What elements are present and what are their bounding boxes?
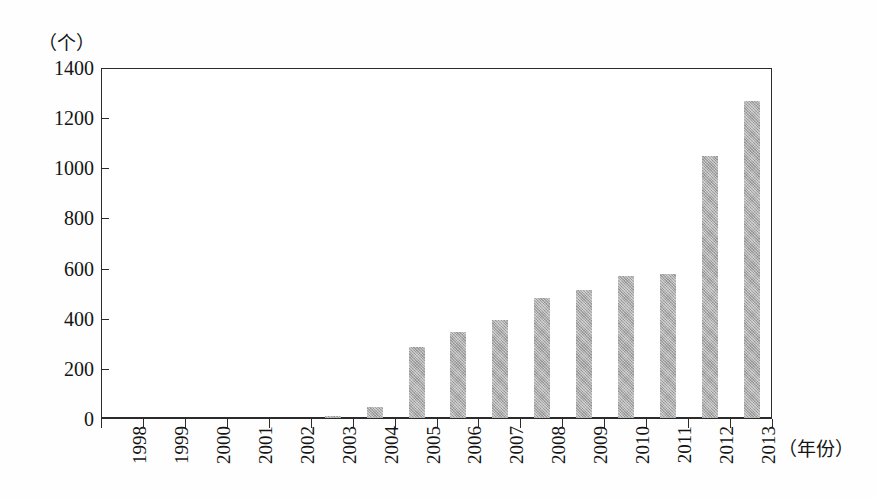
x-tick-mark — [688, 419, 689, 428]
bar — [618, 276, 634, 418]
bar — [660, 274, 676, 418]
x-tick-mark — [520, 419, 521, 428]
plot-area — [101, 68, 772, 419]
bar — [534, 298, 550, 418]
x-tick-mark — [101, 419, 102, 428]
y-axis-unit-label: （个） — [38, 28, 95, 55]
bar — [409, 347, 425, 418]
bar — [325, 416, 341, 419]
x-tick-label: 2004 — [382, 426, 401, 464]
x-tick-mark — [395, 419, 396, 428]
y-tick-label: 800 — [22, 208, 94, 228]
y-tick-label: 0 — [22, 409, 94, 429]
x-axis-unit-label: （年份） — [778, 434, 854, 461]
x-tick-label: 2009 — [591, 426, 610, 464]
bars-layer — [102, 69, 771, 418]
x-tick-mark — [730, 419, 731, 428]
bar-chart-figure: （个） 0200400600800100012001400 1998199920… — [0, 0, 876, 498]
x-tick-label: 2011 — [675, 426, 694, 463]
x-tick-mark — [143, 419, 144, 428]
x-tick-mark — [437, 419, 438, 428]
x-tick-mark — [478, 419, 479, 428]
x-tick-label: 2000 — [214, 426, 233, 464]
x-tick-label: 2008 — [549, 426, 568, 464]
x-tick-mark — [604, 419, 605, 428]
x-tick-label: 2010 — [633, 426, 652, 464]
bar — [367, 407, 383, 418]
x-tick-mark — [227, 419, 228, 428]
x-tick-label: 2013 — [759, 426, 778, 464]
x-tick-label: 2003 — [340, 426, 359, 464]
x-tick-mark — [562, 419, 563, 428]
y-tick-label: 1200 — [22, 108, 94, 128]
bar — [492, 320, 508, 418]
x-tick-label: 2005 — [424, 426, 443, 464]
bar — [576, 290, 592, 418]
x-tick-mark — [185, 419, 186, 428]
x-tick-mark — [646, 419, 647, 428]
x-tick-label: 2001 — [256, 426, 275, 464]
bar — [744, 101, 760, 418]
x-tick-label: 1998 — [130, 426, 149, 464]
y-tick-label: 200 — [22, 359, 94, 379]
y-tick-label: 600 — [22, 259, 94, 279]
bar — [702, 156, 718, 418]
x-tick-label: 1999 — [172, 426, 191, 464]
x-tick-label: 2006 — [465, 426, 484, 464]
x-tick-mark — [353, 419, 354, 428]
y-tick-label: 400 — [22, 309, 94, 329]
x-tick-label: 2002 — [298, 426, 317, 464]
y-tick-label: 1400 — [22, 58, 94, 78]
x-tick-mark — [269, 419, 270, 428]
y-tick-label: 1000 — [22, 158, 94, 178]
x-tick-label: 2007 — [507, 426, 526, 464]
x-tick-mark — [772, 419, 773, 428]
x-tick-label: 2012 — [717, 426, 736, 464]
bar — [450, 332, 466, 418]
x-tick-mark — [311, 419, 312, 428]
